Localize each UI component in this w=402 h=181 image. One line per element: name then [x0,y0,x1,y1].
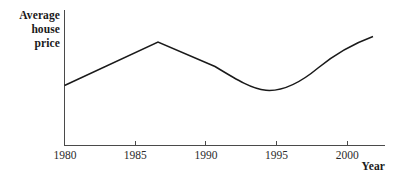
tick-label-1995: 1995 [265,149,288,161]
tick-label-1985: 1985 [124,149,147,161]
x-axis-title: Year [300,160,385,172]
chart-figure: Average house price 1980 1985 1990 1995 … [0,0,402,181]
x-axis-ticks [65,141,348,146]
tick-label-1980: 1980 [54,149,77,161]
tick-label-1990: 1990 [194,149,217,161]
plot-area: 1980 1985 1990 1995 2000 [0,0,402,181]
house-price-line [65,37,374,91]
